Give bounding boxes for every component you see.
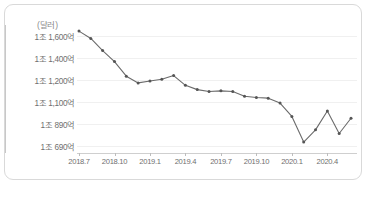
data-point — [184, 84, 187, 87]
data-point — [125, 75, 128, 78]
data-point — [208, 90, 211, 93]
data-point — [255, 96, 258, 99]
plot-area — [77, 25, 357, 153]
data-point — [302, 141, 305, 144]
x-tick-label: 2019.1 — [139, 157, 160, 166]
x-tick-label: 2018.10 — [102, 157, 127, 166]
x-tick-mark — [185, 153, 186, 156]
chart-card: (달러) 1조 1,600억 1조 1,400억 1조 1,200억 1조 1,… — [4, 4, 362, 180]
x-tick-label: 2019.10 — [244, 157, 269, 166]
data-point — [314, 128, 317, 131]
x-tick-mark — [115, 153, 116, 156]
y-tick-label: 1조 890억 — [4, 118, 75, 130]
data-point — [160, 78, 163, 81]
series-line — [79, 31, 351, 142]
data-point — [78, 30, 81, 33]
data-point — [219, 89, 222, 92]
x-tick-mark — [292, 153, 293, 156]
x-tick-mark — [221, 153, 222, 156]
x-tick-mark — [327, 153, 328, 156]
data-point — [148, 80, 151, 83]
x-tick-label: 2020.4 — [317, 157, 338, 166]
data-point — [290, 115, 293, 118]
data-point — [101, 49, 104, 52]
y-tick-label: 1조 690억 — [4, 140, 75, 152]
data-point — [338, 132, 341, 135]
x-tick-mark — [79, 153, 80, 156]
x-tick-label: 2019.4 — [175, 157, 196, 166]
y-tick-label: 1조 1,600억 — [4, 30, 75, 42]
data-point — [113, 60, 116, 63]
x-tick-label: 2020.1 — [281, 157, 302, 166]
y-tick-label: 1조 1,100억 — [4, 96, 75, 108]
data-point — [89, 37, 92, 40]
x-axis-line — [77, 153, 357, 154]
data-point — [267, 97, 270, 100]
y-axis-tick-labels: 1조 1,600억 1조 1,400억 1조 1,200억 1조 1,100억 … — [5, 5, 75, 180]
data-point — [243, 95, 246, 98]
data-point — [231, 90, 234, 93]
data-point — [137, 81, 140, 84]
line-series — [77, 25, 357, 153]
x-tick-mark — [150, 153, 151, 156]
chart-screenshot: (달러) 1조 1,600억 1조 1,400억 1조 1,200억 1조 1,… — [0, 0, 368, 201]
data-point — [279, 102, 282, 105]
x-tick-label: 2019.7 — [210, 157, 231, 166]
x-tick-label: 2018.7 — [68, 157, 89, 166]
data-point — [326, 109, 329, 112]
y-tick-label: 1조 1,200억 — [4, 74, 75, 86]
y-tick-label: 1조 1,400억 — [4, 52, 75, 64]
y-axis-line — [5, 25, 6, 153]
data-point — [172, 74, 175, 77]
data-point — [350, 117, 353, 120]
data-point — [196, 88, 199, 91]
x-tick-mark — [256, 153, 257, 156]
